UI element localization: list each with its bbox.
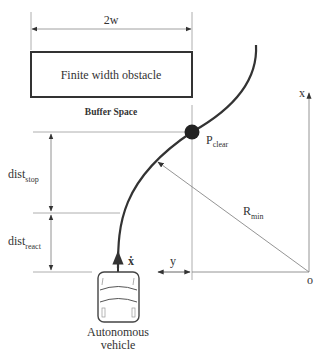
radius-line [158, 162, 309, 272]
width-label: 2w [104, 13, 119, 27]
vehicle-icon [98, 272, 139, 322]
p-clear-point [185, 125, 200, 140]
obstacle: Finite width obstacle [31, 52, 192, 97]
p-clear-label: Pclear [206, 133, 229, 149]
width-dimension: 2w [31, 12, 192, 50]
dist-stop-label: diststop [8, 167, 39, 184]
x-axis-label: x [299, 86, 305, 100]
obstacle-label: Finite width obstacle [61, 68, 162, 82]
vehicle-label-line1: Autonomous [87, 325, 149, 339]
y-label: y [170, 254, 176, 268]
velocity-label: ẋ [128, 254, 134, 268]
path-clearance-diagram: 2w Finite width obstacle Buffer Space di… [0, 0, 322, 356]
dist-react-label: distreact [8, 234, 42, 251]
buffer-space-label: Buffer Space [85, 107, 137, 117]
vehicle-label-line2: vehicle [101, 338, 136, 352]
origin-label: o [307, 273, 313, 287]
radius-label: Rmin [243, 204, 263, 221]
